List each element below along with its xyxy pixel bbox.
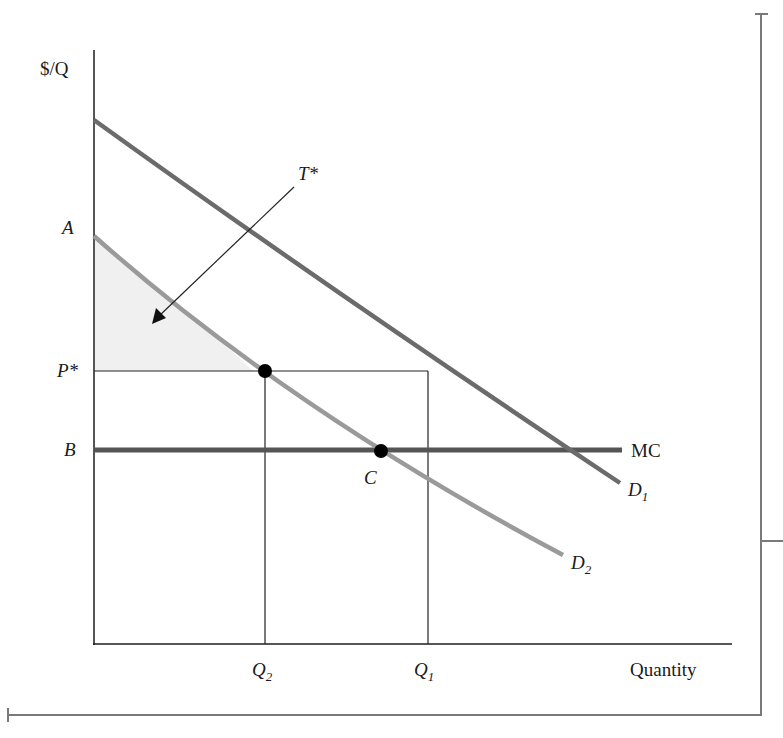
y-axis-label: $/Q [40,58,69,79]
two-part-tariff-diagram: $/Q A P* B C T* MC D1 D2 Q2 Q1 Quantity [0,0,783,738]
label-q1: Q1 [414,659,434,684]
label-b: B [64,439,76,460]
label-q2: Q2 [252,659,273,684]
guide-lines [94,371,428,644]
label-t-star: T* [298,163,319,184]
label-a: A [60,217,74,238]
label-p-star: P* [56,360,79,381]
diagram-canvas: $/Q A P* B C T* MC D1 D2 Q2 Q1 Quantity [0,0,783,738]
x-axis-label: Quantity [630,659,697,680]
point-q2-pstar [258,364,272,378]
label-d1: D1 [627,479,648,504]
label-mc: MC [631,440,661,461]
label-d2: D2 [570,552,592,577]
point-c [374,444,388,458]
label-c: C [364,467,377,488]
t-star-arrow-shaft [158,187,294,317]
